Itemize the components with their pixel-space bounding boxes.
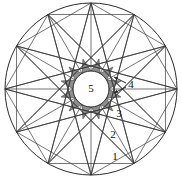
region-label-5: 5 <box>88 82 94 94</box>
region-label-3: 3 <box>116 107 122 119</box>
region-label-1: 1 <box>112 150 118 162</box>
geometry-figure: 1 2 3 4 5 <box>0 0 182 188</box>
region-label-4: 4 <box>128 78 134 90</box>
region-label-2: 2 <box>110 128 116 140</box>
geometry-canvas: 1 2 3 4 5 <box>0 0 182 188</box>
